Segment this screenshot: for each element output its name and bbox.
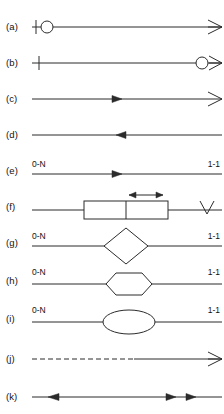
row-label-b: (b) — [6, 58, 18, 68]
row-label-g: (g) — [6, 238, 18, 248]
row-label-d: (d) — [6, 130, 18, 140]
legend-row-j: (j) — [0, 340, 224, 378]
notation-legend: (a) (b) (c) — [0, 0, 224, 414]
row-art-e — [30, 152, 224, 190]
row-art-h — [30, 262, 224, 300]
legend-row-e: (e) 0-N 1-1 — [0, 152, 224, 190]
row-label-a: (a) — [6, 22, 18, 32]
legend-row-f: (f) — [0, 188, 224, 226]
legend-row-k: (k) — [0, 378, 224, 414]
row-label-k: (k) — [6, 392, 17, 402]
row-art-k — [30, 378, 224, 414]
row-label-e: (e) — [6, 166, 18, 176]
row-art-i — [30, 300, 224, 338]
row-art-g — [30, 224, 224, 262]
row-art-j — [30, 340, 224, 378]
row-art-f — [30, 188, 224, 226]
legend-row-g: (g) 0-N 1-1 — [0, 224, 224, 262]
row-art-a — [30, 8, 224, 46]
legend-row-b: (b) — [0, 44, 224, 82]
legend-row-d: (d) — [0, 116, 224, 154]
row-label-c: (c) — [6, 94, 17, 104]
row-art-d — [30, 116, 224, 154]
legend-row-a: (a) — [0, 8, 224, 46]
legend-row-c: (c) — [0, 80, 224, 118]
row-label-j: (j) — [6, 354, 15, 364]
legend-row-h: (h) 0-N 1-1 — [0, 262, 224, 300]
legend-row-i: (i) 0-N 1-1 — [0, 300, 224, 338]
row-art-c — [30, 80, 224, 118]
row-label-i: (i) — [6, 314, 15, 324]
row-label-f: (f) — [6, 202, 15, 212]
row-art-b — [30, 44, 224, 82]
row-label-h: (h) — [6, 276, 18, 286]
